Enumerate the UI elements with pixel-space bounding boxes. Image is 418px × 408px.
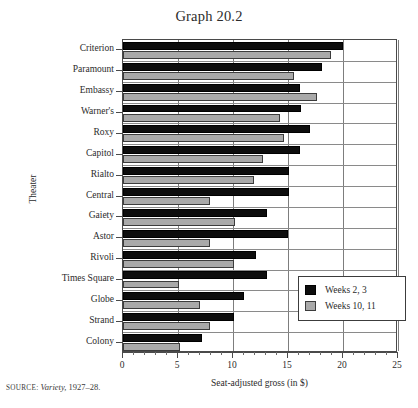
- bar-weeks-10-11: [123, 218, 235, 226]
- bar-weeks-2-3: [123, 209, 267, 217]
- source-prefix: SOURCE:: [6, 384, 38, 392]
- x-tick-minor: [188, 352, 189, 355]
- x-tick-label-10: 10: [217, 360, 247, 370]
- bar-weeks-2-3: [123, 188, 289, 196]
- bar-weeks-10-11: [123, 72, 294, 80]
- x-tick-minor: [210, 352, 211, 355]
- bar-weeks-10-11: [123, 114, 280, 122]
- x-tick-minor: [320, 352, 321, 355]
- y-tick-label-embassy: Embassy: [18, 85, 114, 95]
- bar-weeks-10-11: [123, 51, 331, 59]
- bar-weeks-10-11: [123, 260, 234, 268]
- bar-weeks-10-11: [123, 176, 254, 184]
- bar-group: [123, 123, 396, 144]
- bar-weeks-10-11: [123, 239, 210, 247]
- bar-weeks-2-3: [123, 167, 289, 175]
- y-tick-mark: [116, 91, 122, 92]
- x-tick-label-15: 15: [272, 360, 302, 370]
- bar-weeks-10-11: [123, 301, 200, 309]
- legend-label-weeks-10-11: Weeks 10, 11: [325, 301, 376, 311]
- x-tick-minor: [254, 352, 255, 355]
- x-tick-major: [342, 352, 343, 358]
- bar-group: [123, 82, 396, 103]
- x-tick-minor: [353, 352, 354, 355]
- x-axis-line: [122, 352, 397, 353]
- bar-group: [123, 207, 396, 228]
- x-tick-minor: [298, 352, 299, 355]
- bar-weeks-10-11: [123, 281, 179, 289]
- bar-group: [123, 249, 396, 270]
- bar-weeks-2-3: [123, 63, 322, 71]
- chart-title: Graph 20.2: [0, 8, 418, 25]
- bar-weeks-2-3: [123, 146, 300, 154]
- y-tick-label-paramount: Paramount: [18, 64, 114, 74]
- x-tick-minor: [276, 352, 277, 355]
- bar-weeks-10-11: [123, 197, 210, 205]
- x-tick-minor: [375, 352, 376, 355]
- bar-weeks-10-11: [123, 134, 284, 142]
- bar-weeks-2-3: [123, 313, 234, 321]
- bar-weeks-2-3: [123, 125, 310, 133]
- x-tick-label-5: 5: [162, 360, 192, 370]
- bar-weeks-10-11: [123, 322, 210, 330]
- x-tick-major: [397, 352, 398, 358]
- y-tick-label-warner-s: Warner's: [18, 106, 114, 116]
- y-tick-mark: [116, 175, 122, 176]
- x-axis-label: Seat-adjusted gross (in $): [122, 378, 397, 388]
- chart-figure: Graph 20.2 Theater Seat-adjusted gross (…: [0, 0, 418, 408]
- source-years: 1927–28.: [68, 382, 100, 392]
- x-tick-label-25: 25: [382, 360, 412, 370]
- x-tick-minor: [243, 352, 244, 355]
- x-tick-minor: [144, 352, 145, 355]
- bar-weeks-2-3: [123, 84, 300, 92]
- x-tick-major: [287, 352, 288, 358]
- x-tick-minor: [155, 352, 156, 355]
- y-tick-label-gaiety: Gaiety: [18, 210, 114, 220]
- x-tick-minor: [386, 352, 387, 355]
- x-tick-minor: [265, 352, 266, 355]
- y-tick-mark: [116, 196, 122, 197]
- y-tick-mark: [116, 49, 122, 50]
- source-publication: Variety,: [41, 382, 67, 392]
- bar-weeks-2-3: [123, 42, 343, 50]
- y-tick-label-capitol: Capitol: [18, 148, 114, 158]
- bar-weeks-10-11: [123, 343, 180, 351]
- bar-group: [123, 103, 396, 124]
- y-tick-mark: [116, 300, 122, 301]
- bar-group: [123, 186, 396, 207]
- bar-group: [123, 61, 396, 82]
- y-tick-label-times-square: Times Square: [18, 273, 114, 283]
- bar-weeks-2-3: [123, 292, 244, 300]
- x-tick-minor: [166, 352, 167, 355]
- y-tick-label-colony: Colony: [18, 336, 114, 346]
- x-tick-minor: [331, 352, 332, 355]
- bar-group: [123, 144, 396, 165]
- y-tick-label-criterion: Criterion: [18, 43, 114, 53]
- y-tick-mark: [116, 70, 122, 71]
- y-tick-label-rialto: Rialto: [18, 169, 114, 179]
- y-tick-mark: [116, 237, 122, 238]
- x-tick-minor: [309, 352, 310, 355]
- y-tick-mark: [116, 321, 122, 322]
- y-tick-mark: [116, 258, 122, 259]
- bar-weeks-10-11: [123, 155, 263, 163]
- chart-legend: Weeks 2, 3 Weeks 10, 11: [298, 276, 406, 321]
- x-tick-major: [177, 352, 178, 358]
- y-tick-label-globe: Globe: [18, 294, 114, 304]
- legend-item-weeks-2-3: Weeks 2, 3: [305, 282, 399, 298]
- y-tick-mark: [116, 216, 122, 217]
- bar-weeks-10-11: [123, 93, 317, 101]
- legend-swatch-dark-icon: [305, 285, 316, 295]
- x-tick-minor: [221, 352, 222, 355]
- source-note: SOURCE: Variety, 1927–28.: [6, 382, 100, 392]
- y-tick-label-central: Central: [18, 190, 114, 200]
- y-tick-label-roxy: Roxy: [18, 127, 114, 137]
- y-tick-label-astor: Astor: [18, 231, 114, 241]
- legend-item-weeks-10-11: Weeks 10, 11: [305, 298, 399, 314]
- x-tick-label-0: 0: [107, 360, 137, 370]
- bar-weeks-2-3: [123, 105, 301, 113]
- legend-swatch-light-icon: [305, 301, 316, 311]
- x-tick-major: [232, 352, 233, 358]
- bar-weeks-2-3: [123, 251, 256, 259]
- x-tick-major: [122, 352, 123, 358]
